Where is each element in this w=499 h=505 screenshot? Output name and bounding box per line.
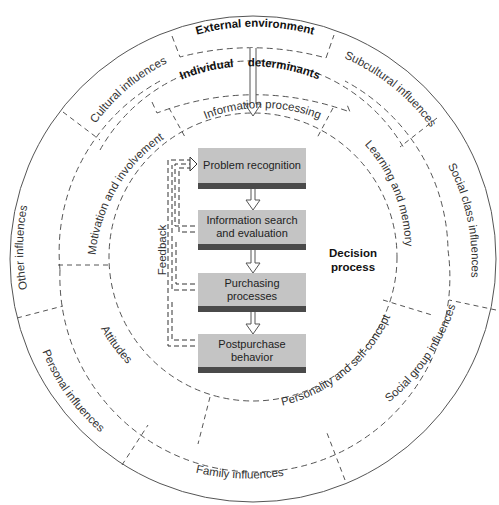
decision-process-title: Decision process [318,246,388,274]
step-postpurchase-behavior: Postpurchase behavior [198,334,306,373]
step-problem-recognition: Problem recognition [198,148,306,189]
family-influences-label: Family influences [195,463,284,481]
step-purchasing-processes: Purchasing processes [198,273,306,312]
feedback-label: Feedback [156,225,168,276]
subcultural-influences-label: Subcultural influences [343,49,439,129]
consumer-behavior-diagram: External environment Cultural influences… [0,0,499,505]
step-information-search: Information search and evaluation [198,210,306,250]
feedback-lines [168,160,195,346]
motivation-involvement-label: Motivation and involvement [85,130,166,255]
other-influences-label: Other influences [13,204,29,291]
social-class-influences-label: Social class influences [446,161,482,278]
attitudes-label: Attitudes [99,323,135,365]
learning-and-memory-label: Learning and memory [363,138,415,247]
feedback-arrow-icon [190,157,197,171]
social-group-influences-label: Social group influences [383,302,458,404]
personal-influences-label: Personal influences [40,348,107,434]
information-processing-label: Information processing [202,98,323,121]
ring-diagram: External environment Cultural influences… [0,0,499,505]
